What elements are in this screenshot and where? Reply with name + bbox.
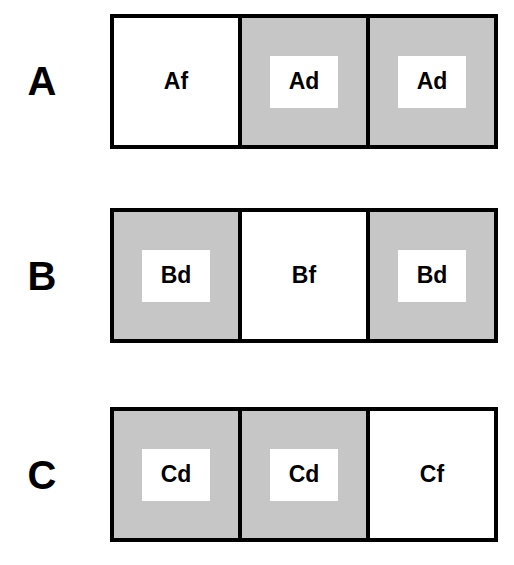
strip-a: Af Ad Ad [110, 14, 498, 149]
cell-label: Cf [398, 449, 466, 501]
cell-label: Cd [142, 449, 210, 501]
cell-b-3: Bd [366, 212, 494, 339]
row-label-b: B [18, 256, 66, 296]
row-label-c: C [18, 455, 66, 495]
strip-b: Bd Bf Bd [110, 208, 498, 343]
cell-a-1: Af [114, 18, 238, 145]
cell-label: Ad [398, 56, 466, 108]
cell-label: Af [142, 56, 210, 108]
cell-label: Bd [142, 250, 210, 302]
cell-a-3: Ad [366, 18, 494, 145]
cell-label: Bd [398, 250, 466, 302]
cell-a-2: Ad [238, 18, 366, 145]
cell-c-3: Cf [366, 411, 494, 538]
cell-label: Ad [270, 56, 338, 108]
cell-label: Cd [270, 449, 338, 501]
cell-c-1: Cd [114, 411, 238, 538]
strip-c: Cd Cd Cf [110, 407, 498, 542]
cell-b-1: Bd [114, 212, 238, 339]
row-label-a: A [18, 61, 66, 101]
cell-label: Bf [270, 250, 338, 302]
cell-c-2: Cd [238, 411, 366, 538]
cell-b-2: Bf [238, 212, 366, 339]
